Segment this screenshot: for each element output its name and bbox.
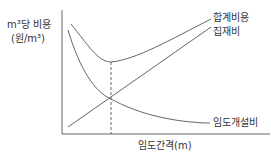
collection-cost-line bbox=[68, 27, 211, 127]
collection-cost-label: 집재비 bbox=[213, 26, 240, 38]
road-cost-curve bbox=[68, 30, 210, 123]
total-cost-label: 합계비용 bbox=[213, 12, 249, 24]
y-axis-label-line1: m³당 비용 bbox=[7, 19, 51, 31]
x-axis-label: 임도간격(m) bbox=[138, 140, 192, 152]
road-cost-label: 임도개설비 bbox=[213, 117, 258, 129]
total-cost-curve bbox=[71, 19, 211, 62]
y-axis-label-line2: (원/m³) bbox=[11, 33, 45, 45]
